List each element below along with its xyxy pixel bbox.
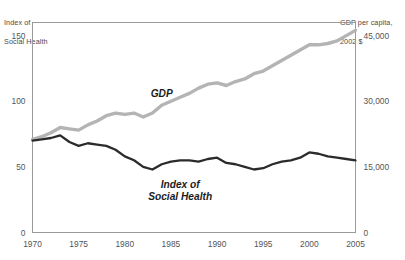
y-tick-50: 50	[16, 162, 26, 172]
x-tick-1975: 1975	[69, 239, 88, 249]
x-tick-1995: 1995	[254, 239, 273, 249]
series-annotations: GDPIndex ofSocial Health	[148, 88, 212, 202]
y2-tick-15000: 15,000	[364, 162, 390, 172]
y-tick-0: 0	[21, 228, 26, 238]
series-label-gdp: GDP	[151, 88, 173, 99]
series-label-index-line2: Social Health	[148, 191, 212, 202]
y-axis-tick-labels: 050100150	[12, 31, 26, 238]
x-tick-1980: 1980	[115, 239, 134, 249]
x-tick-2000: 2000	[300, 239, 319, 249]
chart-container: Index of Social Health GDP per capita, 2…	[0, 0, 405, 260]
x-tick-1985: 1985	[162, 239, 181, 249]
series-line-index-of-social-health	[33, 135, 356, 169]
y-tick-150: 150	[12, 31, 26, 41]
series-label-index-line1: Index of	[161, 179, 202, 190]
chart-plot: 050100150 015,00030,00045,000 1970197519…	[0, 0, 405, 260]
y2-tick-45000: 45,000	[364, 31, 390, 41]
y2-axis-tick-labels: 015,00030,00045,000	[364, 31, 390, 238]
y-tick-100: 100	[12, 96, 26, 106]
x-tick-1970: 1970	[23, 239, 42, 249]
y2-tick-30000: 30,000	[364, 96, 390, 106]
series-line-gdp	[33, 30, 356, 139]
x-tick-1990: 1990	[208, 239, 227, 249]
series-lines	[33, 30, 356, 169]
x-axis-tick-labels: 19701975198019851990199520002005	[23, 239, 365, 249]
y2-tick-0: 0	[364, 228, 369, 238]
x-tick-2005: 2005	[346, 239, 365, 249]
